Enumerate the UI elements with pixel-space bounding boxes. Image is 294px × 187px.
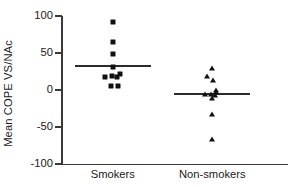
data-point bbox=[108, 83, 113, 88]
data-point bbox=[209, 96, 215, 101]
plot-area bbox=[62, 16, 288, 164]
data-point bbox=[114, 75, 119, 80]
y-axis-tick-label: 100 bbox=[22, 10, 53, 21]
y-axis-tick bbox=[55, 89, 62, 91]
y-axis-label: Mean COPE VS/NAc bbox=[0, 0, 16, 187]
data-point bbox=[210, 77, 216, 82]
data-point bbox=[110, 39, 115, 44]
data-point bbox=[110, 19, 115, 24]
data-point bbox=[209, 136, 215, 141]
x-axis-group-label-non-smokers: Non-smokers bbox=[152, 169, 272, 180]
data-point bbox=[102, 74, 107, 79]
y-axis-tick bbox=[55, 126, 62, 128]
y-axis-tick-label: -100 bbox=[22, 158, 53, 169]
data-point bbox=[209, 111, 215, 116]
data-point bbox=[202, 92, 208, 97]
y-axis-tick bbox=[55, 15, 62, 17]
y-axis-tick bbox=[55, 52, 62, 54]
data-point bbox=[110, 52, 115, 57]
data-point bbox=[209, 65, 215, 70]
y-axis-tick-label: 0 bbox=[22, 84, 53, 95]
y-axis-tick bbox=[55, 163, 62, 165]
y-axis-tick-label: -50 bbox=[22, 121, 53, 132]
data-point bbox=[115, 83, 120, 88]
figure-container: Mean COPE VS/NAc 100500-50-100 SmokersNo… bbox=[0, 0, 294, 187]
y-axis-tick-label: 50 bbox=[22, 47, 53, 58]
data-point bbox=[110, 65, 115, 70]
